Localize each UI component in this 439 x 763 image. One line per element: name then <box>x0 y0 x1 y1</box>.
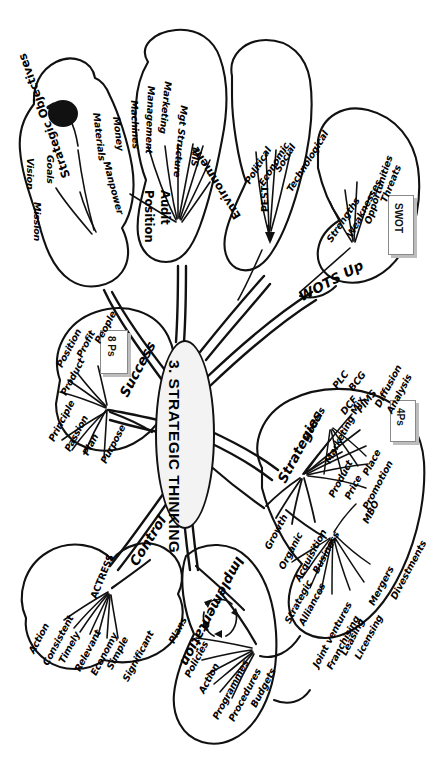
four-ps-box-label: 4Ps <box>395 408 406 426</box>
arrowhead-pest <box>265 232 275 244</box>
label-goals: Goals <box>45 155 56 184</box>
center-node-label: 3. STRATEGIC THINKING <box>165 360 183 553</box>
label-vision: Vision <box>25 158 36 189</box>
label-management: Management <box>144 86 157 154</box>
center-node[interactable] <box>155 340 215 529</box>
eight-ps-box-label: 8 Ps <box>106 336 117 357</box>
label-mission: Mission <box>32 202 43 241</box>
swot-box-label: SWOT <box>393 203 404 233</box>
label-pest: PEST <box>259 186 270 212</box>
branch-label-position-audit-2: Audit <box>158 190 172 225</box>
label-machines: Machines <box>129 100 142 149</box>
mindmap-canvas: 3. STRATEGIC THINKING 8 Ps SWOT 4Ps Stra… <box>0 0 439 763</box>
blob-strategies-lobe <box>260 636 300 657</box>
line-strategies-trunk <box>208 464 264 508</box>
branch-label-position-audit-1: Position <box>142 190 156 243</box>
blob-implementation-lobe <box>274 690 310 703</box>
